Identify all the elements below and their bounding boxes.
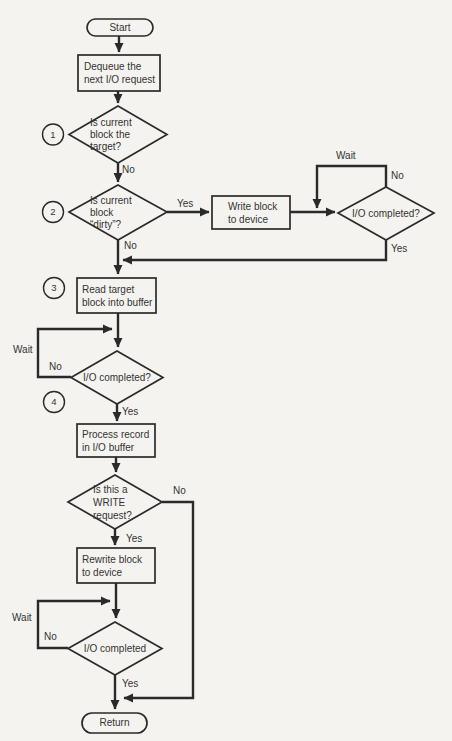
edge-label-no-write: No: [173, 485, 186, 497]
io2-label: I/O completed?: [71, 351, 163, 404]
dequeue-label: Dequeue the next I/O request: [84, 56, 160, 90]
edge-label-no-dirty: No: [124, 240, 137, 252]
edge-label-no-io3: No: [44, 631, 57, 643]
edge-label-yes-io3: Yes: [122, 678, 138, 690]
rewrite-label: Rewrite block to device: [82, 549, 156, 582]
step-marker-1: 1: [42, 124, 64, 145]
edge-label-wait-1: Wait: [336, 150, 356, 162]
iswrite-label: Is this a WRITE request?: [93, 477, 151, 527]
step-marker-3: 3: [43, 277, 65, 298]
edge-label-no-io2: No: [49, 361, 62, 373]
edge-io1-yes-return-line: [123, 240, 386, 260]
start-label: Start: [87, 19, 153, 36]
readtarget-label: Read target block into buffer: [82, 279, 158, 312]
edge-label-wait-2: Wait: [13, 344, 33, 356]
edge-label-wait-3: Wait: [12, 612, 32, 624]
edge-label-yes-io1: Yes: [391, 243, 407, 255]
edge-label-yes-io2: Yes: [122, 406, 138, 418]
return-label: Return: [82, 713, 147, 733]
flowchart-canvas: Start Dequeue the next I/O request Is cu…: [0, 0, 452, 741]
io1-label: I/O completed?: [338, 188, 434, 239]
step-marker-4: 4: [43, 391, 65, 412]
step-marker-2: 2: [42, 201, 64, 222]
edge-label-no-io1: No: [391, 170, 404, 182]
istarget-label: Is current block the target?: [90, 108, 152, 161]
io3-label: I/O completed: [68, 622, 162, 675]
edge-label-yes-write: Yes: [126, 533, 142, 545]
isdirty-label: Is current block “dirty”?: [90, 186, 152, 239]
processrecord-label: Process record in I/O buffer: [82, 425, 156, 456]
writeblock-label: Write block to device: [228, 197, 288, 228]
edge-label-yes-dirty: Yes: [177, 198, 193, 210]
edge-label-no-target: No: [122, 164, 135, 176]
